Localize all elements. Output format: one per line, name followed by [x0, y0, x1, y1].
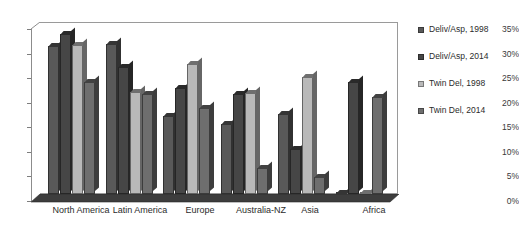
y-axis-line-back [31, 29, 32, 201]
legend-label: Deliv/Asp, 2014 [429, 52, 489, 61]
bar-africa-series-1 [348, 82, 359, 194]
bar-face [48, 46, 59, 194]
bar-side-face [359, 75, 363, 191]
legend-label: Twin Del, 1998 [429, 79, 485, 88]
bar-north-america-series-1 [60, 34, 71, 194]
x-axis-label-latin-america: Latin America [100, 205, 180, 215]
bar-face [278, 114, 289, 194]
bar-north-america-series-2 [72, 45, 83, 194]
bar-face [372, 97, 383, 194]
bar-group [336, 22, 383, 194]
x-axis-label-africa: Africa [350, 205, 398, 215]
bar-north-america-series-0 [48, 46, 59, 194]
legend-item[interactable]: Deliv/Asp, 1998 [418, 24, 518, 35]
bar-face [290, 149, 301, 194]
legend-swatch-icon [418, 54, 424, 60]
legend-item[interactable]: Deliv/Asp, 2014 [418, 51, 518, 62]
bar-face [199, 108, 210, 194]
bar-australia-nz-series-3 [257, 168, 268, 194]
bar-face [233, 94, 244, 194]
bar-europe-series-3 [199, 108, 210, 194]
bar-latin-america-series-1 [118, 67, 129, 194]
bar-face [72, 45, 83, 194]
bar-face [302, 77, 313, 194]
bar-group [163, 22, 210, 194]
bar-face [175, 88, 186, 194]
bar-africa-series-2 [360, 193, 371, 195]
bar-side-face [268, 162, 272, 191]
bar-face [245, 93, 256, 194]
bar-europe-series-0 [163, 116, 174, 194]
bar-face [84, 82, 95, 194]
bar-face [106, 44, 117, 194]
bar-side-face [325, 171, 329, 191]
bar-europe-series-2 [187, 64, 198, 194]
y-tick-label: 5% [489, 172, 519, 180]
bar-latin-america-series-0 [106, 44, 117, 194]
bar-group [48, 22, 95, 194]
bar-europe-series-1 [175, 88, 186, 194]
x-axis-label-europe: Europe [170, 205, 230, 215]
bar-face [142, 94, 153, 194]
bar-side-face [383, 91, 387, 191]
legend-swatch-icon [418, 108, 424, 114]
bar-face [130, 92, 141, 194]
bar-north-america-series-3 [84, 82, 95, 194]
bar-side-face [153, 87, 157, 191]
bar-side-face [313, 70, 317, 191]
bar-australia-nz-series-0 [221, 124, 232, 194]
x-axis-label-asia: Asia [290, 205, 330, 215]
bar-face [118, 67, 129, 194]
bar-africa-series-0 [336, 193, 347, 195]
y-tick-label: 10% [489, 148, 519, 156]
y-tick-label: 0% [489, 197, 519, 205]
bar-latin-america-series-3 [142, 94, 153, 194]
bar-side-face [210, 101, 214, 191]
bar-australia-nz-series-2 [245, 93, 256, 194]
bar-face [60, 34, 71, 194]
bar-asia-series-2 [302, 77, 313, 194]
bar-face [163, 116, 174, 194]
bar-australia-nz-series-1 [233, 94, 244, 194]
bar-latin-america-series-2 [130, 92, 141, 194]
legend-item[interactable]: Twin Del, 2014 [418, 105, 518, 116]
bar-side-face [95, 75, 99, 191]
bar-face [221, 124, 232, 194]
bar-asia-series-0 [278, 114, 289, 194]
legend-item[interactable]: Twin Del, 1998 [418, 78, 518, 89]
x-axis-label-australia-nz: Australia-NZ [225, 205, 297, 215]
bar-face [257, 168, 268, 194]
chart-container: 0%5%10%15%20%25%30%35% North AmericaLati… [0, 0, 519, 237]
legend-swatch-icon [418, 81, 424, 87]
bar-asia-series-1 [290, 149, 301, 194]
bar-group [278, 22, 325, 194]
bar-face [348, 82, 359, 194]
bar-africa-series-3 [372, 97, 383, 194]
bar-face [314, 177, 325, 194]
bar-face [187, 64, 198, 194]
legend-label: Twin Del, 2014 [429, 106, 485, 115]
bar-group [221, 22, 268, 194]
chart-legend: Deliv/Asp, 1998Deliv/Asp, 2014Twin Del, … [418, 24, 518, 132]
bars-layer [40, 22, 398, 202]
legend-label: Deliv/Asp, 1998 [429, 25, 489, 34]
legend-swatch-icon [418, 27, 424, 33]
bar-asia-series-3 [314, 177, 325, 194]
bar-group [106, 22, 153, 194]
